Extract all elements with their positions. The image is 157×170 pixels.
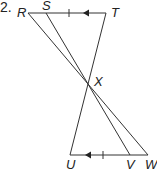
point-label-w: W <box>145 158 157 170</box>
point-label-x: X <box>94 75 103 88</box>
point-label-t: T <box>111 6 119 19</box>
geometry-figure <box>0 0 157 170</box>
parallel-arrow-st-icon <box>83 10 89 17</box>
parallel-arrow-uv-icon <box>85 152 91 159</box>
point-label-u: U <box>66 158 75 170</box>
point-label-r: R <box>17 6 26 19</box>
point-label-s: S <box>42 0 51 12</box>
point-label-v: V <box>126 158 135 170</box>
